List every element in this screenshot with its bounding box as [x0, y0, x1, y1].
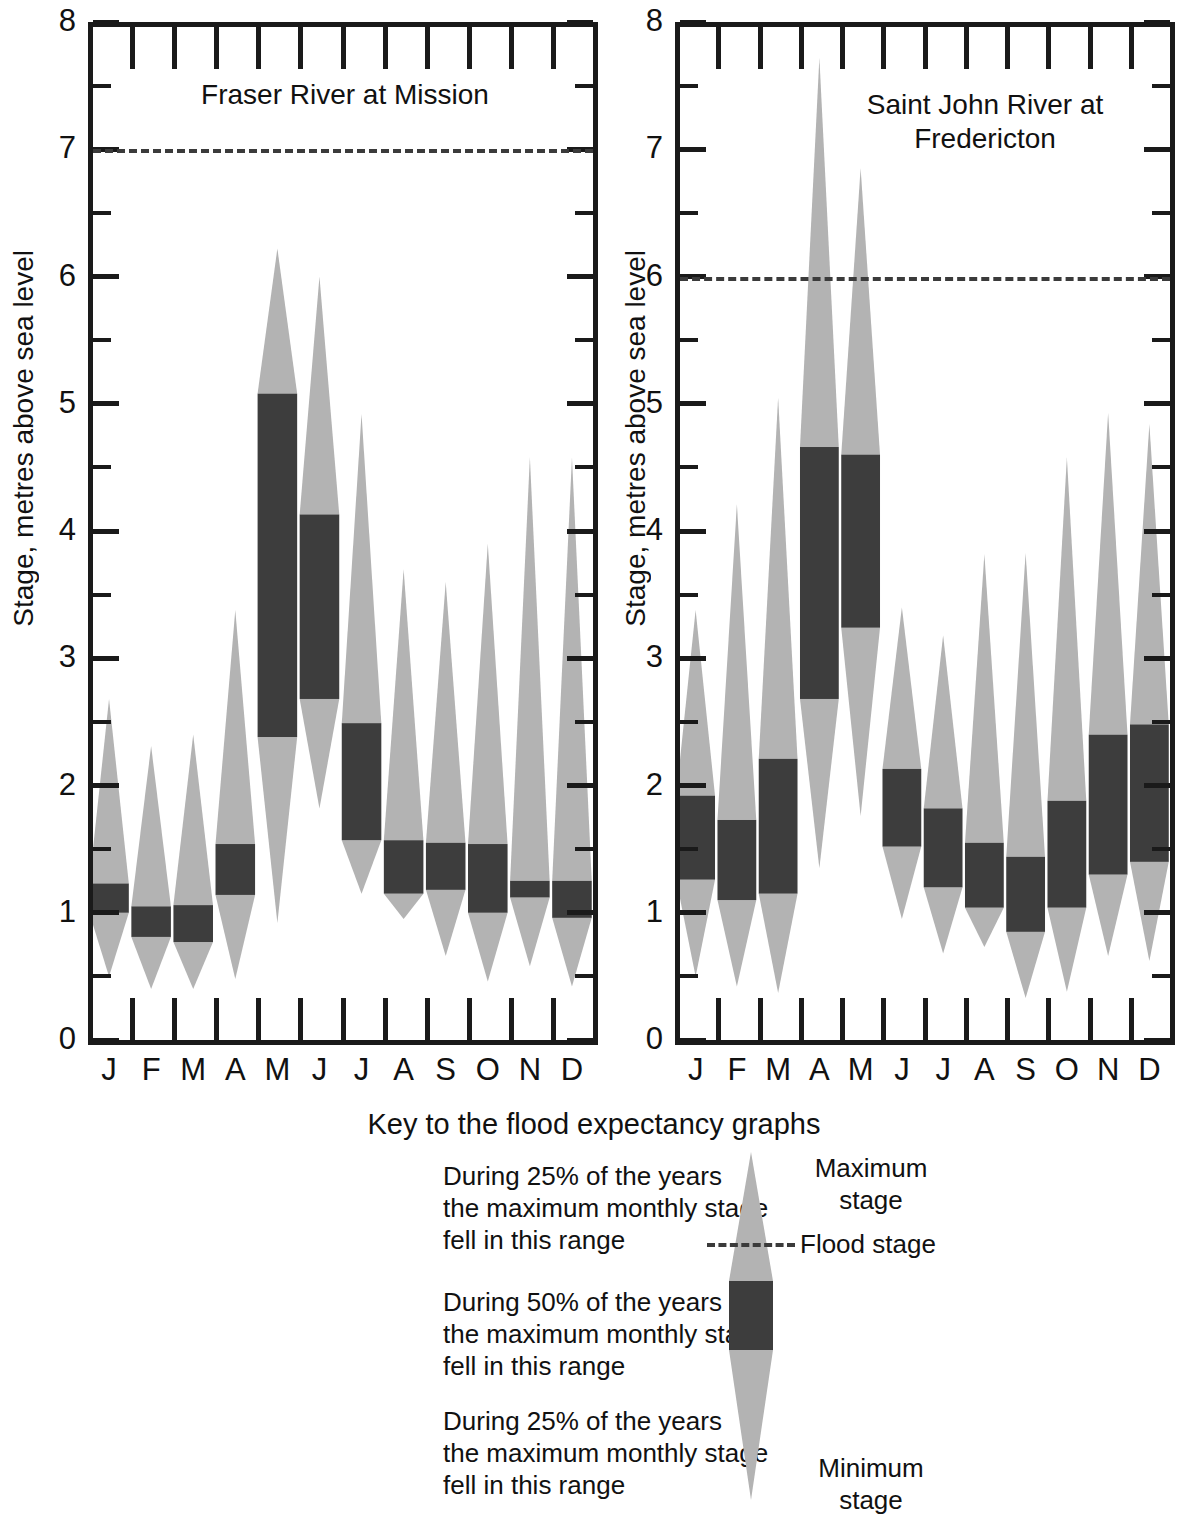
- y-tick-label: 0: [619, 1023, 663, 1054]
- x-tick-top: [172, 27, 177, 69]
- lower-quartile-area: [216, 895, 256, 979]
- x-tick-bottom: [88, 998, 93, 1040]
- x-tick-top: [1046, 27, 1051, 69]
- y-tick-left: [680, 974, 698, 978]
- y-tick-label: 3: [619, 641, 663, 672]
- interquartile-box: [1047, 801, 1086, 908]
- upper-quartile-area: [173, 735, 213, 906]
- y-tick-left: [93, 338, 111, 342]
- y-tick-left: [680, 20, 706, 25]
- x-tick-bottom: [256, 998, 261, 1040]
- x-tick-bottom: [840, 998, 845, 1040]
- y-tick-right: [1144, 401, 1170, 406]
- y-tick-right: [575, 847, 593, 851]
- lower-quartile-area: [1006, 932, 1045, 998]
- upper-quartile-area: [426, 582, 466, 843]
- x-tick-top: [964, 27, 969, 69]
- upper-quartile-area: [1006, 553, 1045, 857]
- lower-quartile-area: [717, 900, 756, 987]
- y-tick-label: 3: [32, 641, 76, 672]
- y-tick-right: [567, 529, 593, 534]
- upper-quartile-area: [841, 168, 880, 454]
- interquartile-box: [676, 796, 715, 880]
- x-tick-top: [675, 27, 680, 69]
- interquartile-box: [258, 394, 298, 738]
- interquartile-box: [342, 723, 382, 840]
- y-tick-left: [680, 656, 706, 661]
- month-spindle: [1006, 553, 1045, 998]
- x-tick-bottom: [551, 998, 556, 1040]
- x-tick-top: [467, 27, 472, 69]
- y-tick-left: [680, 84, 698, 88]
- month-spindle: [1047, 457, 1086, 991]
- month-spindle: [1130, 424, 1169, 961]
- x-tick-bottom: [1046, 998, 1051, 1040]
- upper-quartile-area: [1089, 413, 1128, 735]
- lower-quartile-area: [965, 908, 1004, 947]
- x-tick-top: [1005, 27, 1010, 69]
- upper-quartile-area: [759, 397, 798, 758]
- interquartile-box: [759, 759, 798, 894]
- y-tick-left: [93, 720, 111, 724]
- y-tick-left: [680, 147, 706, 152]
- month-spindle: [800, 58, 839, 869]
- y-tick-right: [1152, 847, 1170, 851]
- month-spindle: [426, 582, 466, 956]
- lower-quartile-area: [89, 913, 129, 977]
- right-axis-line: [1170, 22, 1175, 1043]
- y-tick-right: [1152, 84, 1170, 88]
- x-axis-line: [88, 1040, 598, 1045]
- y-tick-right: [567, 401, 593, 406]
- lower-quartile-area: [841, 628, 880, 816]
- month-spindle: [759, 397, 798, 993]
- y-tick-right: [1144, 20, 1170, 25]
- upper-quartile-area: [965, 554, 1004, 843]
- y-tick-left: [93, 465, 111, 469]
- y-tick-left: [680, 211, 698, 215]
- interquartile-box: [1006, 857, 1045, 932]
- upper-quartile-area: [676, 610, 715, 796]
- y-tick-left: [93, 974, 111, 978]
- upper-quartile-area: [717, 504, 756, 820]
- y-tick-left: [93, 1038, 119, 1043]
- lower-quartile-area: [300, 699, 340, 808]
- x-tick-bottom: [341, 998, 346, 1040]
- x-tick-bottom: [881, 998, 886, 1040]
- x-tick-bottom: [758, 998, 763, 1040]
- lower-quartile-area: [131, 937, 171, 989]
- y-tick-left: [93, 274, 119, 279]
- flood-stage-line: [93, 149, 593, 153]
- x-tick-label-month: D: [1123, 1054, 1175, 1085]
- y-tick-label: 8: [619, 5, 663, 36]
- y-tick-right: [575, 974, 593, 978]
- x-tick-label-month: D: [546, 1054, 598, 1085]
- month-spindle: [468, 544, 508, 982]
- y-tick-left: [680, 783, 706, 788]
- chart-title-fraser: Fraser River at Mission: [110, 78, 580, 112]
- x-axis-line: [675, 1040, 1175, 1045]
- key-maximum-stage-label: Maximum stage: [786, 1152, 956, 1216]
- lower-quartile-area: [800, 699, 839, 868]
- interquartile-box: [1089, 735, 1128, 875]
- y-tick-left: [93, 84, 111, 88]
- interquartile-box: [300, 514, 340, 699]
- x-tick-top: [716, 27, 721, 69]
- x-tick-top: [1129, 27, 1134, 69]
- month-spindle: [841, 168, 880, 816]
- x-tick-bottom: [964, 998, 969, 1040]
- y-tick-left: [680, 593, 698, 597]
- x-tick-top: [341, 27, 346, 69]
- upper-quartile-area: [384, 569, 424, 840]
- lower-quartile-area: [882, 847, 921, 920]
- y-tick-left: [93, 211, 111, 215]
- y-tick-right: [575, 338, 593, 342]
- key-flood-dash: [707, 1243, 795, 1247]
- interquartile-box: [468, 844, 508, 913]
- y-tick-left: [680, 910, 706, 915]
- y-tick-right: [1152, 720, 1170, 724]
- x-tick-top: [1170, 27, 1175, 69]
- x-tick-top: [551, 27, 556, 69]
- y-tick-left: [680, 401, 706, 406]
- y-tick-right: [1144, 1038, 1170, 1043]
- y-tick-left: [93, 20, 119, 25]
